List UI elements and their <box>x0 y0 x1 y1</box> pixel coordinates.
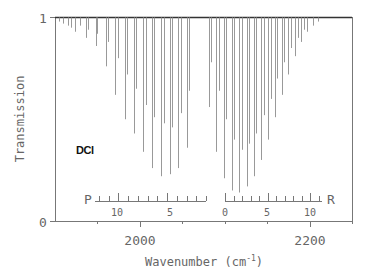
x-tick-label-2200: 2200 <box>294 233 325 248</box>
y-tick-label-0: 0 <box>39 215 47 230</box>
x-axis-unit: cm <box>232 255 246 269</box>
p-branch-tick-5: 5 <box>167 207 173 218</box>
spectrum-chart: 1 0 2000 2200 Transmission Wavenumber (c… <box>0 0 369 279</box>
spectral-lines <box>60 18 319 193</box>
plot-frame <box>50 17 353 222</box>
molecule-label: DCl <box>76 144 94 156</box>
p-branch-label: P <box>84 192 92 207</box>
x-axis-unit-exponent: -1 <box>246 254 256 263</box>
r-branch-tick-10: 10 <box>304 207 316 218</box>
p-branch-tick-10: 10 <box>111 207 123 218</box>
x-axis-label-text: Wavenumber <box>145 255 217 269</box>
r-branch-label: R <box>327 192 335 207</box>
x-axis-label: Wavenumber (cm-1) <box>145 254 263 269</box>
branch-scales <box>95 193 322 202</box>
y-tick-label-1: 1 <box>39 11 47 26</box>
y-axis-label: Transmission <box>13 76 27 163</box>
r-branch-tick-0: 0 <box>222 207 228 218</box>
x-tick-label-2000: 2000 <box>124 233 155 248</box>
r-branch-tick-5: 5 <box>264 207 270 218</box>
